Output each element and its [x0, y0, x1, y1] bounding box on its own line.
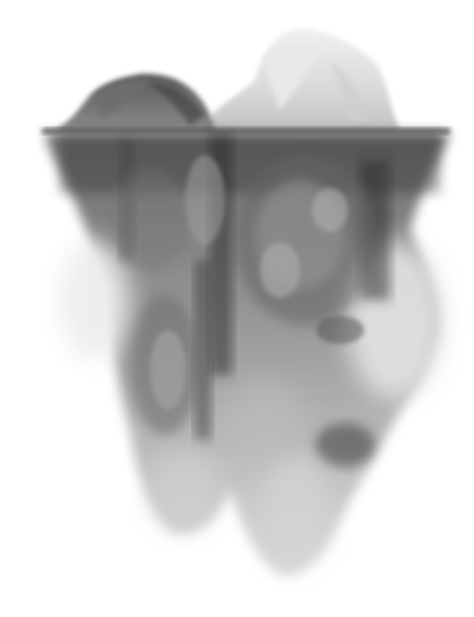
iceberg-svg [0, 0, 474, 617]
iceberg-peak-right [200, 28, 400, 130]
iceberg-underwater [45, 133, 450, 576]
iceberg-peak-left [55, 74, 215, 130]
iceberg-artwork [0, 0, 474, 617]
